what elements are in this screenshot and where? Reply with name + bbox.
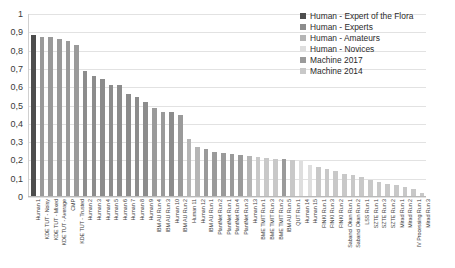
x-axis-tick: FINKI Run 3: [323, 199, 332, 268]
bar: [212, 152, 217, 196]
bar: [100, 79, 105, 196]
y-axis-tick-label: 0,4: [0, 120, 23, 129]
bar: [195, 147, 200, 196]
x-axis-tick-label: Mirad Run 3: [425, 199, 430, 228]
y-axis-tick-label: 0,9: [0, 28, 23, 37]
legend-item-label: Human - Expert of the Flora: [310, 12, 413, 20]
bar-slot: [46, 14, 55, 196]
legend-item-label: Human - Novices: [310, 45, 374, 53]
x-axis-tick: Human 12: [193, 199, 202, 268]
x-axis-labels: Human 1KDE TUT - NoisyKDE TUT - MixedKDE…: [29, 199, 427, 268]
bar: [308, 165, 313, 196]
bar: [178, 115, 183, 196]
legend-swatch-icon: [300, 46, 306, 52]
legend-item: Human - Novices: [300, 45, 413, 53]
x-axis-tick: Sabanci Okan Run 1: [340, 199, 349, 268]
legend: Human - Expert of the FloraHuman - Exper…: [300, 12, 413, 75]
bar: [368, 180, 373, 196]
legend-item: Human - Amateurs: [300, 34, 413, 42]
bar-slot: [38, 14, 47, 196]
bar: [169, 112, 174, 196]
bar: [299, 161, 304, 196]
bar-slot: [133, 14, 142, 196]
x-axis-tick: Human 3: [90, 199, 99, 268]
x-axis-tick: Human 10: [167, 199, 176, 268]
bar-slot: [271, 14, 280, 196]
legend-swatch-icon: [300, 35, 306, 41]
x-axis-tick: FINKI Run 1: [315, 199, 324, 268]
bar-slot: [236, 14, 245, 196]
x-axis-tick: PlantNet Run 1: [219, 199, 228, 268]
bar: [161, 112, 166, 196]
bar: [247, 156, 252, 196]
bar: [394, 185, 399, 196]
x-axis-tick: IBM AU Run 4: [150, 199, 159, 268]
x-axis-line: [28, 196, 426, 197]
legend-item-label: Human - Amateurs: [310, 34, 380, 42]
bar: [40, 37, 45, 196]
bar-slot: [29, 14, 38, 196]
bar: [282, 159, 287, 196]
x-axis-tick: BME TMIT Run 3: [263, 199, 272, 268]
bar: [204, 149, 209, 196]
x-axis-tick: IBM AU Run 3: [159, 199, 168, 268]
x-axis-tick: IBM AU Run 2: [176, 199, 185, 268]
bar: [31, 35, 36, 196]
bar: [342, 174, 347, 196]
x-axis-tick: Mirad Run 3: [418, 199, 427, 268]
bar: [420, 193, 425, 196]
x-axis-tick: FINKI Run 2: [332, 199, 341, 268]
x-axis-tick: BME TMIT Run 2: [271, 199, 280, 268]
legend-item: Human - Expert of the Flora: [300, 12, 413, 20]
bar-slot: [245, 14, 254, 196]
bar-slot: [280, 14, 289, 196]
bar-slot: [72, 14, 81, 196]
bar: [117, 85, 122, 196]
bar: [92, 76, 97, 196]
x-axis-tick: IBM AU Run 1: [202, 199, 211, 268]
x-axis-tick: PlantNet Run 2: [211, 199, 220, 268]
bar: [325, 169, 330, 196]
bar: [351, 175, 356, 196]
bar: [48, 37, 53, 196]
x-axis-tick: SZTE Run 1: [366, 199, 375, 268]
bar-slot: [150, 14, 159, 196]
x-axis-tick: Human 4: [98, 199, 107, 268]
x-axis-tick: Human 15: [306, 199, 315, 268]
x-axis-tick: Human 1: [29, 199, 38, 268]
legend-swatch-icon: [300, 68, 306, 74]
legend-item: Machine 2017: [300, 56, 413, 64]
x-axis-tick: KDE TUT - Mixed: [46, 199, 55, 268]
bar: [290, 160, 295, 196]
legend-item-label: Machine 2017: [310, 56, 363, 64]
y-axis-tick-label: 0,5: [0, 102, 23, 111]
bar-slot: [228, 14, 237, 196]
legend-item: Machine 2014: [300, 67, 413, 75]
x-axis-tick: SZTE Run 2: [384, 199, 393, 268]
bar: [238, 155, 243, 196]
bar: [126, 94, 131, 196]
bar: [256, 157, 261, 196]
x-axis-tick: Human 11: [185, 199, 194, 268]
bar: [135, 97, 140, 196]
bar-slot: [107, 14, 116, 196]
y-axis-tick-label: 0,6: [0, 83, 23, 92]
x-axis-tick: Mirad Run 1: [392, 199, 401, 268]
y-axis-tick-label: 1: [0, 10, 23, 19]
x-axis-tick: IV Processing Run 1: [410, 199, 419, 268]
bar: [359, 177, 364, 196]
bar: [221, 153, 226, 196]
bar-slot: [193, 14, 202, 196]
bar: [264, 158, 269, 196]
x-axis-tick: BME TMIT Run 1: [254, 199, 263, 268]
y-axis-tick-label: 0,8: [0, 47, 23, 56]
bar-slot: [115, 14, 124, 196]
x-axis-tick: PlantNet Run 3: [237, 199, 246, 268]
bar-slot: [262, 14, 271, 196]
bar-slot: [124, 14, 133, 196]
bar-slot: [98, 14, 107, 196]
bar-slot: [167, 14, 176, 196]
bar-slot: [219, 14, 228, 196]
bar: [66, 41, 71, 196]
x-axis-tick: LSS Run 1: [358, 199, 367, 268]
